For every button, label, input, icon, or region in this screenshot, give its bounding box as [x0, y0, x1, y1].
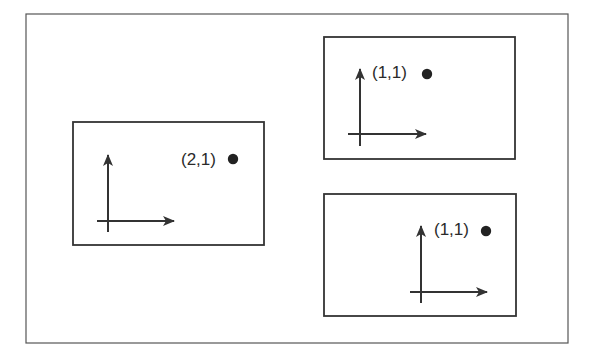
point-dot-icon	[481, 226, 491, 236]
point-label: (1,1)	[372, 63, 407, 82]
point-dot-icon	[228, 154, 238, 164]
panel-top-right-box	[324, 37, 515, 159]
panel-top-right: (1,1)	[324, 37, 515, 159]
point-dot-icon	[422, 69, 432, 79]
point-label: (1,1)	[434, 220, 469, 239]
coordinate-frames-diagram: (2,1) (1,1) (1,1)	[0, 0, 590, 361]
point-label: (2,1)	[181, 150, 216, 169]
panel-left-box	[73, 122, 264, 245]
panel-left: (2,1)	[73, 122, 264, 245]
panel-bottom-right: (1,1)	[324, 194, 516, 316]
